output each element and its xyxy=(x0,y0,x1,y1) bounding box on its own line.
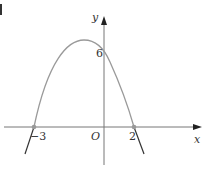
x-axis-label: x xyxy=(194,134,200,145)
x-right-intercept-label: 2 xyxy=(129,131,136,142)
graph-canvas xyxy=(0,0,209,173)
x-axis-arrow-icon xyxy=(193,124,202,130)
origin-label: O xyxy=(91,131,100,142)
x-intercept-point-left xyxy=(32,125,37,130)
parabola-figure: y x O 6 −3 2 xyxy=(0,0,209,173)
y-intercept-label: 6 xyxy=(96,48,103,59)
x-intercept-point-right xyxy=(132,125,137,130)
y-axis-label: y xyxy=(92,12,98,23)
y-axis-arrow-icon xyxy=(101,16,107,25)
parabola-curve xyxy=(34,40,134,127)
x-left-intercept-label: −3 xyxy=(30,131,46,142)
